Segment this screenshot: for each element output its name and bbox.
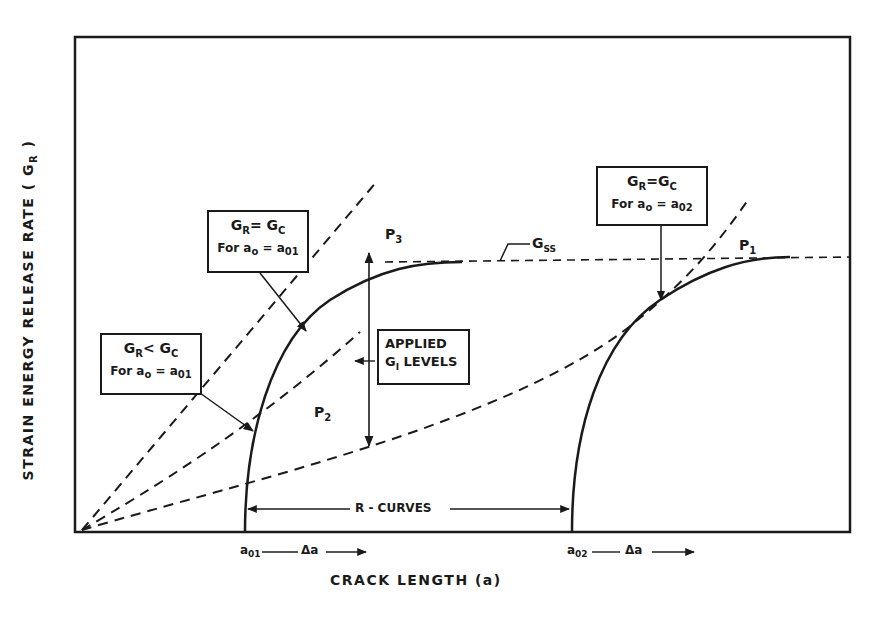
y-axis-label: STRAIN ENERGY RELEASE RATE ( GR ) <box>20 140 39 481</box>
p1-label: P1 <box>739 237 756 256</box>
x-axis-label: CRACK LENGTH (a) <box>330 572 502 588</box>
r-curves-label: R - CURVES <box>355 501 432 515</box>
diagram-canvas <box>0 0 890 622</box>
gss-leader <box>500 244 530 261</box>
delta-a-2: Δa <box>625 543 642 557</box>
p3-label: P3 <box>385 226 402 245</box>
annotation-applied-gi-levels: APPLIED GI LEVELS <box>377 329 470 385</box>
annotation-gr-equals-gc-a01: GR= GC For ao = a01 <box>207 210 309 273</box>
tick-a02: a02 <box>567 543 588 559</box>
r-curve-1 <box>245 262 462 532</box>
gss-label: GSS <box>532 235 556 254</box>
tick-a01: a01 <box>240 543 261 559</box>
annotation-gr-less-gc: GR< GC For ao = a01 <box>100 333 202 395</box>
r-curve-2 <box>572 257 790 532</box>
p2-label: P2 <box>314 404 331 423</box>
plot-frame <box>75 37 850 532</box>
annotation-gr-equals-gc-a02: GR=GC For ao = a02 <box>596 166 708 226</box>
leader-lt <box>200 393 253 431</box>
delta-a-1: Δa <box>301 543 318 557</box>
leader-eq1 <box>260 273 306 331</box>
